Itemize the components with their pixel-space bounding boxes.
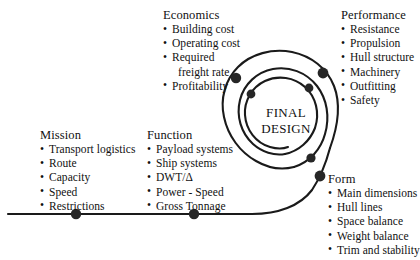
block-mission: Mission •Transport logistics •Route •Cap… (40, 128, 135, 213)
list-item-label: Safety (350, 94, 380, 106)
list-item: •Operating cost (163, 36, 240, 50)
bullet-icon: • (40, 198, 44, 212)
list-item: •Space balance (328, 214, 420, 228)
list-item: •Propulsion (341, 36, 414, 50)
list-item: •Payload systems (147, 142, 233, 156)
list-item: •Restrictions (40, 199, 135, 213)
bullet-icon: • (341, 64, 345, 78)
list-item-label: Operating cost (172, 37, 240, 49)
bullet-icon: • (40, 170, 44, 184)
block-economics-title: Economics (163, 8, 240, 22)
bullet-icon: • (40, 156, 44, 170)
block-form: Form •Main dimensions •Hull lines •Space… (328, 172, 420, 257)
list-item-label: Hull lines (337, 201, 383, 213)
bullet-icon: • (341, 22, 345, 36)
inner-node-lower (306, 153, 315, 162)
bullet-icon: • (163, 22, 167, 36)
bullet-icon: • (341, 50, 345, 64)
bullet-icon: • (328, 214, 332, 228)
final-design-label: FINAL DESIGN (249, 105, 323, 136)
list-item-label: freight rate (178, 66, 229, 78)
bullet-icon: • (147, 156, 151, 170)
block-performance-title: Performance (341, 8, 414, 22)
list-item-label: Machinery (350, 66, 400, 78)
bullet-icon: • (341, 36, 345, 50)
list-item-label: Ship systems (156, 157, 217, 169)
block-function-list: •Payload systems •Ship systems •DWT/Δ •P… (147, 142, 233, 213)
list-item: •Power - Speed (147, 185, 233, 199)
list-item-label: Speed (49, 186, 77, 198)
bullet-icon: • (147, 198, 151, 212)
list-item-continuation: freight rate (163, 65, 240, 79)
bullet-icon: • (163, 36, 167, 50)
list-item: •Trim and stability (328, 243, 420, 257)
list-item: •Building cost (163, 22, 240, 36)
list-item: •Hull lines (328, 200, 420, 214)
list-item-label: Main dimensions (337, 187, 417, 199)
bullet-icon: • (147, 184, 151, 198)
block-form-list: •Main dimensions •Hull lines •Space bala… (328, 186, 420, 257)
bullet-icon: • (147, 170, 151, 184)
list-item-label: Required (172, 51, 215, 63)
list-item-label: Power - Speed (156, 186, 224, 198)
list-item-label: Trim and stability (337, 244, 420, 256)
list-item: •Route (40, 156, 135, 170)
bullet-icon: • (40, 142, 44, 156)
list-item-label: Transport logistics (49, 143, 135, 155)
list-item-label: Restrictions (49, 200, 105, 212)
list-item: •Ship systems (147, 156, 233, 170)
list-item: •Profitability (163, 79, 240, 93)
block-economics-list: •Building cost •Operating cost •Required… (163, 22, 240, 93)
block-function: Function •Payload systems •Ship systems … (147, 128, 233, 213)
list-item: •Outfitting (341, 79, 414, 93)
list-item-label: Hull structure (350, 51, 414, 63)
block-form-title: Form (328, 172, 420, 186)
final-design-line-2: DESIGN (249, 121, 323, 137)
bullet-icon: • (328, 228, 332, 242)
inner-node-right (305, 84, 314, 93)
list-item: •Resistance (341, 22, 414, 36)
list-item: •Machinery (341, 65, 414, 79)
bullet-icon: • (40, 184, 44, 198)
block-mission-title: Mission (40, 128, 135, 142)
list-item-label: Route (49, 157, 77, 169)
bullet-icon: • (163, 50, 167, 64)
bullet-icon: • (328, 200, 332, 214)
list-item-label: Building cost (172, 23, 234, 35)
bullet-icon: • (163, 78, 167, 92)
final-design-line-1: FINAL (249, 105, 323, 121)
block-function-title: Function (147, 128, 233, 142)
list-item: •Main dimensions (328, 186, 420, 200)
block-performance-list: •Resistance •Propulsion •Hull structure … (341, 22, 414, 107)
list-item-label: Payload systems (156, 143, 233, 155)
list-item: •Capacity (40, 170, 135, 184)
list-item-label: Capacity (49, 171, 90, 183)
bullet-icon: • (328, 242, 332, 256)
list-item-label: Space balance (337, 215, 403, 227)
inner-node-left (247, 90, 256, 99)
block-mission-list: •Transport logistics •Route •Capacity •S… (40, 142, 135, 213)
list-item: •Speed (40, 185, 135, 199)
form-node (315, 171, 326, 182)
list-item: •Transport logistics (40, 142, 135, 156)
list-item: •Safety (341, 93, 414, 107)
list-item: •Weight balance (328, 229, 420, 243)
diagram-canvas: FINAL DESIGN Economics •Building cost •O… (0, 0, 420, 260)
performance-node (318, 68, 329, 79)
bullet-icon: • (341, 93, 345, 107)
list-item-label: Outfitting (350, 80, 396, 92)
list-item: •Gross Tonnage (147, 199, 233, 213)
block-performance: Performance •Resistance •Propulsion •Hul… (341, 8, 414, 107)
list-item: •Hull structure (341, 50, 414, 64)
list-item-label: Gross Tonnage (156, 200, 226, 212)
list-item: •Required (163, 50, 240, 64)
list-item-label: Resistance (350, 23, 400, 35)
list-item-label: Profitability (172, 80, 228, 92)
list-item-label: Weight balance (337, 230, 409, 242)
bullet-icon: • (341, 78, 345, 92)
bullet-icon: • (147, 142, 151, 156)
list-item-label: DWT/Δ (156, 171, 193, 183)
list-item: •DWT/Δ (147, 170, 233, 184)
list-item-label: Propulsion (350, 37, 400, 49)
block-economics: Economics •Building cost •Operating cost… (163, 8, 240, 93)
